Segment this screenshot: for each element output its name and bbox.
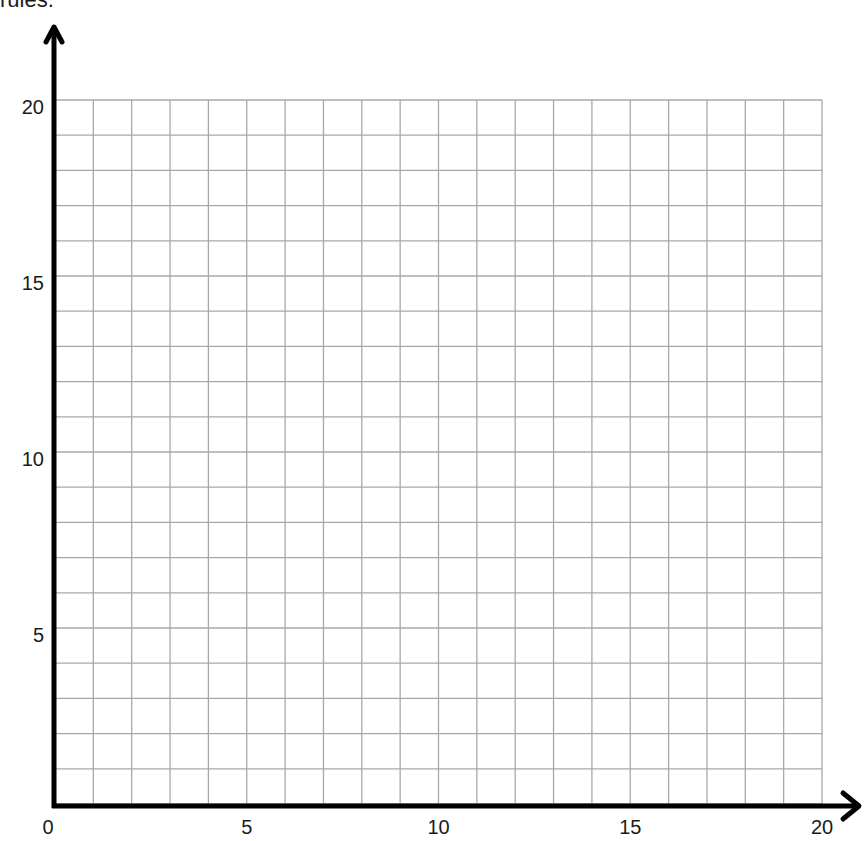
coordinate-grid-chart: 05101520 5101520 — [0, 0, 866, 841]
x-tick-labels: 05101520 — [42, 816, 833, 838]
y-tick-labels: 5101520 — [22, 96, 44, 646]
x-tick-label: 20 — [811, 816, 833, 838]
y-tick-label: 15 — [22, 272, 44, 294]
x-tick-label: 5 — [241, 816, 252, 838]
y-tick-label: 20 — [22, 96, 44, 118]
y-tick-label: 5 — [33, 624, 44, 646]
x-tick-label: 0 — [42, 816, 53, 838]
y-tick-label: 10 — [22, 448, 44, 470]
x-tick-label: 15 — [619, 816, 641, 838]
axes — [46, 27, 859, 819]
grid-lines — [55, 100, 822, 804]
x-tick-label: 10 — [427, 816, 449, 838]
